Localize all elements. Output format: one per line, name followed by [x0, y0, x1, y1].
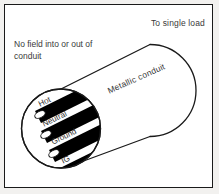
figure-canvas: To single load No field into or out of c… [0, 0, 219, 194]
conduit-illustration [0, 0, 219, 194]
wire-tip-ig [57, 167, 70, 178]
